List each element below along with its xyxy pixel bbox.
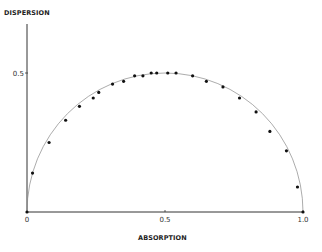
data-point xyxy=(191,74,194,77)
data-point xyxy=(122,80,125,83)
theoretical-semicircle xyxy=(27,73,303,212)
data-point xyxy=(64,119,67,122)
data-point xyxy=(268,130,271,133)
data-point xyxy=(155,71,158,74)
data-point xyxy=(111,83,114,86)
y-ticks: 0.5 xyxy=(13,70,28,78)
y-tick-label: 0.5 xyxy=(13,70,24,78)
y-axis-title: DISPERSION xyxy=(4,9,50,17)
chart-area: DISPERSION ABSORPTION 00.51.0 0.5 xyxy=(0,0,322,252)
data-point xyxy=(141,74,144,77)
data-point xyxy=(285,149,288,152)
data-point xyxy=(133,74,136,77)
x-tick-label: 0.5 xyxy=(159,216,170,224)
data-point xyxy=(92,96,95,99)
data-point xyxy=(150,71,153,74)
x-tick-label: 1.0 xyxy=(297,216,308,224)
data-point xyxy=(221,85,224,88)
data-point xyxy=(174,71,177,74)
x-axis-title: ABSORPTION xyxy=(138,234,187,242)
data-point xyxy=(25,210,28,213)
data-point xyxy=(97,91,100,94)
data-point xyxy=(238,96,241,99)
data-point xyxy=(47,141,50,144)
data-point xyxy=(166,71,169,74)
data-point xyxy=(296,185,299,188)
data-points xyxy=(25,71,304,213)
data-point xyxy=(205,80,208,83)
data-point xyxy=(78,105,81,108)
data-point xyxy=(301,210,304,213)
data-point xyxy=(31,171,34,174)
data-point xyxy=(254,110,257,113)
x-tick-label: 0 xyxy=(25,216,29,224)
